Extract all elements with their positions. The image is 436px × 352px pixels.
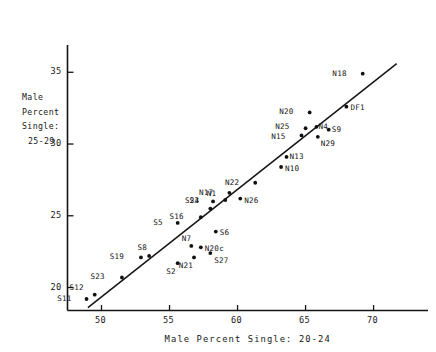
data-point-label: S27	[214, 256, 228, 265]
data-point-label: S8	[138, 243, 148, 252]
data-point-label: N20c	[205, 244, 224, 253]
data-point	[199, 215, 203, 219]
data-point-label: S2	[166, 267, 176, 276]
data-point	[189, 244, 193, 248]
y-tick-label: 35	[51, 66, 62, 76]
data-point-label: S9	[332, 125, 342, 134]
data-point-label: S3	[190, 196, 200, 205]
data-point-label: S23	[91, 272, 105, 281]
data-point-label: S6	[220, 228, 230, 237]
y-tick-label: 25	[51, 210, 62, 220]
data-point	[316, 135, 320, 139]
data-point	[93, 293, 97, 297]
data-point-label: DF1	[350, 103, 364, 112]
scatter-plot: 505560657020253035S11S12S23S19S8S2N21N7N…	[0, 0, 436, 352]
trend-line	[88, 64, 397, 308]
data-point	[208, 207, 212, 211]
data-point	[214, 230, 218, 234]
data-point	[192, 256, 196, 260]
data-point	[120, 276, 124, 280]
data-point	[300, 134, 304, 138]
data-point	[344, 105, 348, 109]
data-point-label: N17	[199, 188, 213, 197]
data-point-label: N25	[275, 122, 289, 131]
y-axis-title-line: Male	[22, 92, 43, 102]
y-tick-label: 20	[51, 282, 62, 292]
data-point-label: N10	[285, 164, 299, 173]
data-point	[304, 126, 308, 130]
data-point	[147, 254, 151, 258]
x-tick-label: 55	[163, 315, 174, 325]
y-axis-title-line: Single:	[22, 121, 59, 131]
x-tick-label: 70	[367, 315, 378, 325]
data-point-label: N29	[321, 139, 335, 148]
data-point	[253, 181, 257, 185]
data-point	[85, 297, 89, 301]
data-point-label: N13	[290, 152, 304, 161]
data-point-label: N15	[271, 132, 285, 141]
data-point-label: S16	[169, 212, 183, 221]
data-point-label: N22	[225, 178, 239, 187]
data-point	[176, 221, 180, 225]
data-point-label: S12	[69, 283, 83, 292]
data-point-label: N21	[179, 261, 193, 270]
data-point-label: N4	[318, 122, 328, 131]
data-point	[361, 72, 365, 76]
data-point	[227, 191, 231, 195]
data-point-label: N20	[279, 107, 293, 116]
data-point-label: S5	[153, 218, 163, 227]
x-tick-label: 60	[231, 315, 242, 325]
data-point	[238, 197, 242, 201]
data-point-label: S19	[110, 252, 124, 261]
x-axis-title: Male Percent Single: 20-24	[165, 334, 331, 344]
data-point	[139, 256, 143, 260]
data-point	[211, 200, 215, 204]
data-point-label: N26	[244, 196, 258, 205]
data-point	[285, 155, 289, 159]
data-point	[279, 165, 283, 169]
data-point-label: N18	[332, 69, 346, 78]
x-tick-label: 50	[95, 315, 106, 325]
data-point-label: S11	[57, 294, 71, 303]
y-axis-title-line: Percent	[22, 107, 59, 117]
data-point	[199, 245, 203, 249]
y-axis-title-line: 25-29	[28, 136, 55, 146]
data-point-label: N7	[182, 234, 192, 243]
data-point	[308, 111, 312, 115]
x-tick-label: 65	[299, 315, 310, 325]
data-point	[223, 198, 227, 202]
